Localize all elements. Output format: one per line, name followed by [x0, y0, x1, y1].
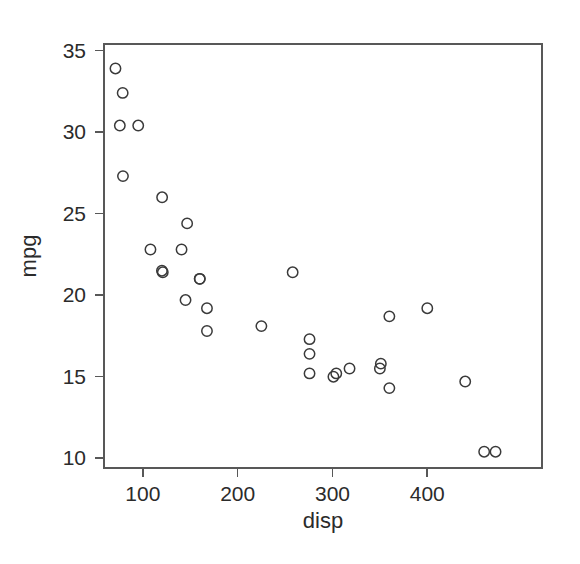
- x-tick-label-100: 100: [125, 482, 160, 505]
- x-tick-label-200: 200: [220, 482, 255, 505]
- y-tick-label-30: 30: [63, 120, 86, 143]
- y-axis-title: mpg: [16, 235, 41, 278]
- x-tick-label-400: 400: [410, 482, 445, 505]
- y-tick-label-15: 15: [63, 365, 86, 388]
- y-tick-label-10: 10: [63, 446, 86, 469]
- y-tick-label-20: 20: [63, 283, 86, 306]
- x-tick-label-300: 300: [315, 482, 350, 505]
- x-axis-title: disp: [303, 508, 343, 533]
- scatter-plot-figure: 100200300400 101520253035 disp mpg: [0, 0, 580, 564]
- plot-canvas: 100200300400 101520253035 disp mpg: [0, 0, 580, 564]
- y-tick-label-35: 35: [63, 39, 86, 62]
- y-tick-label-25: 25: [63, 202, 86, 225]
- plot-background: [0, 0, 580, 564]
